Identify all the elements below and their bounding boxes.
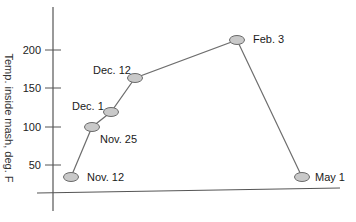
y-tick-label-100: 100: [23, 121, 41, 133]
y-tick-label-50: 50: [29, 159, 41, 171]
marker-nov-25: [85, 123, 100, 132]
y-axis-label: Temp. inside mash, deg. F: [3, 53, 15, 182]
label-feb-3: Feb. 3: [253, 33, 284, 45]
label-dec-12: Dec. 12: [93, 64, 131, 76]
marker-nov-12: [64, 173, 79, 182]
marker-may-1: [295, 173, 310, 182]
line-chart: Temp. inside mash, deg. F 200 150 100 50…: [0, 0, 356, 222]
marker-feb-3: [230, 36, 245, 45]
label-nov-12: Nov. 12: [87, 171, 124, 183]
y-tick-label-150: 150: [23, 82, 41, 94]
marker-dec-1: [104, 108, 119, 117]
y-tick-label-200: 200: [23, 44, 41, 56]
y-ticks: 200 150 100 50: [23, 44, 61, 171]
label-nov-25: Nov. 25: [100, 133, 137, 145]
x-axis: [37, 188, 340, 193]
label-may-1: May 1: [315, 171, 345, 183]
label-dec-1: Dec. 1: [72, 100, 104, 112]
